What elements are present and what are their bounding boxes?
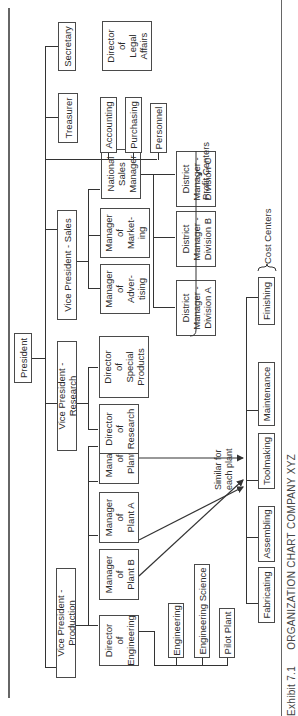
profit-centers-brace bbox=[190, 151, 202, 336]
caption-title: ORGANIZATION CHART COMPANY XYZ bbox=[286, 454, 297, 650]
arrows-overlay bbox=[0, 0, 298, 716]
exhibit-number: Exhibit 7.1 bbox=[286, 666, 297, 716]
arrow-plant-a bbox=[139, 487, 243, 540]
cost-centers-brace bbox=[258, 264, 276, 271]
org-chart-figure: President Vice President - Production Vi… bbox=[0, 0, 298, 716]
figure-caption: Exhibit 7.1 ORGANIZATION CHART COMPANY X… bbox=[286, 454, 297, 716]
